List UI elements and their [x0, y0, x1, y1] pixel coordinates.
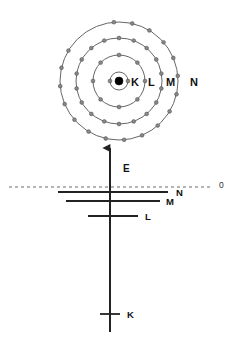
energy-level-label-n: N — [176, 187, 183, 198]
electron-n-16 — [58, 84, 62, 88]
electron-m-15 — [75, 72, 79, 76]
electron-m-8 — [145, 112, 149, 116]
shell-label-k: K — [131, 76, 139, 88]
electron-n-12 — [104, 137, 108, 141]
electron-l-8 — [99, 61, 103, 65]
electron-n-7 — [175, 92, 179, 96]
electron-n-8 — [168, 109, 172, 113]
electron-k-1 — [108, 79, 112, 83]
electron-m-7 — [154, 101, 158, 105]
electron-l-3 — [143, 79, 147, 83]
electron-l-5 — [117, 105, 121, 109]
zero-energy-label: 0 — [219, 180, 224, 190]
energy-level-label-m: M — [166, 196, 174, 207]
electron-l-4 — [135, 97, 139, 101]
electron-n-6 — [176, 74, 180, 78]
electron-n-15 — [63, 102, 67, 106]
electron-m-4 — [154, 58, 158, 62]
electron-n-1 — [112, 20, 116, 24]
electron-n-18 — [67, 49, 71, 53]
electron-m-6 — [159, 87, 163, 91]
electron-m-14 — [75, 87, 79, 91]
shell-label-n: N — [190, 76, 198, 88]
electron-m-18 — [102, 39, 106, 43]
physics-figure: K L M N E 0 N M L K — [0, 0, 235, 340]
electron-m-13 — [80, 101, 84, 105]
electron-l-1 — [117, 53, 121, 57]
electron-l-2 — [135, 61, 139, 65]
electron-n-13 — [87, 130, 91, 134]
electron-m-5 — [159, 72, 163, 76]
electron-m-17 — [89, 46, 93, 50]
electron-m-12 — [89, 112, 93, 116]
electron-n-10 — [140, 133, 144, 137]
electron-m-16 — [80, 58, 84, 62]
electron-m-1 — [117, 36, 121, 40]
electron-n-14 — [73, 118, 77, 122]
nucleus — [115, 77, 123, 85]
electron-m-10 — [117, 122, 121, 126]
electron-n-2 — [130, 22, 134, 26]
atom-shell-model — [58, 20, 179, 141]
shell-label-l: L — [148, 76, 155, 88]
figure-canvas: K L M N E 0 N M L K — [0, 0, 235, 340]
electron-n-5 — [171, 56, 175, 60]
electron-l-6 — [99, 97, 103, 101]
energy-level-label-l: L — [145, 211, 151, 222]
electron-n-9 — [156, 124, 160, 128]
electron-m-9 — [132, 120, 136, 124]
electron-m-11 — [102, 120, 106, 124]
electron-n-17 — [60, 66, 64, 70]
shell-label-m: M — [166, 76, 175, 88]
electron-n-11 — [122, 138, 126, 142]
energy-level-diagram — [9, 148, 210, 332]
electron-l-7 — [91, 79, 95, 83]
energy-level-label-k: K — [127, 309, 134, 320]
electron-k-2 — [126, 79, 130, 83]
energy-axis-label: E — [123, 163, 130, 174]
electron-m-3 — [145, 46, 149, 50]
electron-m-2 — [132, 39, 136, 43]
electron-n-4 — [162, 40, 166, 44]
electron-n-3 — [147, 29, 151, 33]
